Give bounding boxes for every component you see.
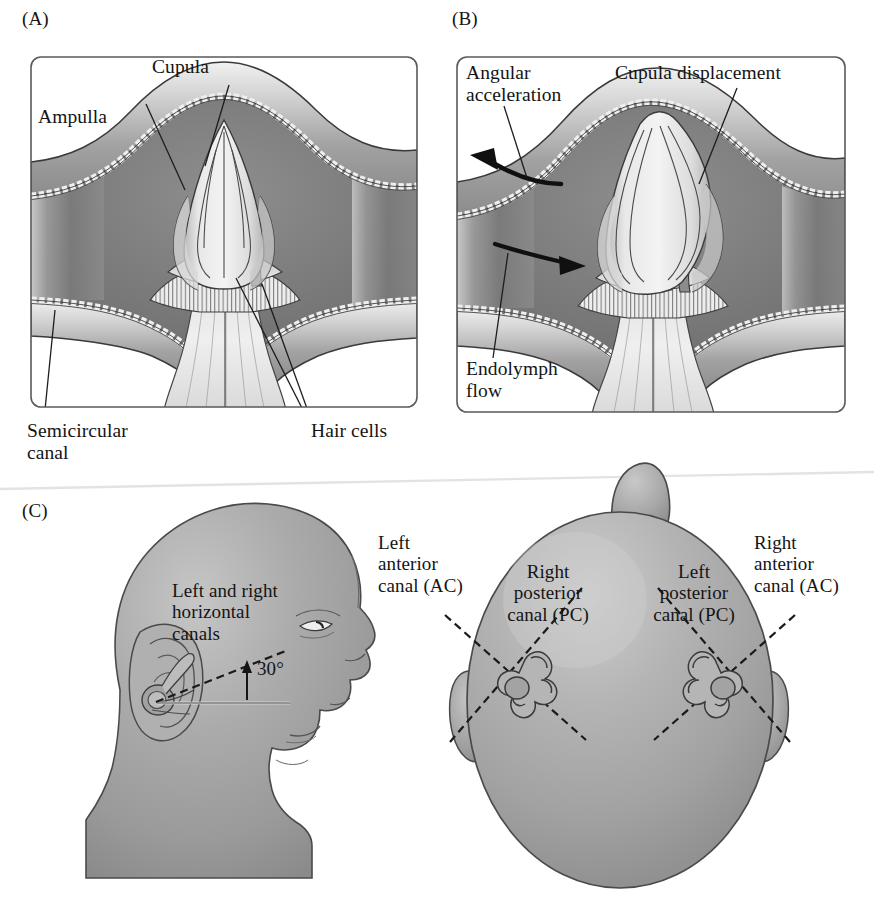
figure-artwork: [0, 0, 874, 905]
label-angular-acceleration: Angular acceleration: [466, 62, 561, 106]
label-angle-30: 30°: [257, 658, 284, 679]
label-hair-cells: Hair cells: [311, 420, 387, 442]
panel-c-side-head-artwork: [86, 503, 375, 878]
label-right-anterior-canal: Right anterior canal (AC): [754, 532, 839, 596]
label-left-anterior-canal: Left anterior canal (AC): [378, 532, 463, 596]
label-semicircular-canal: Semicircular canal: [27, 420, 128, 464]
scan-fold-line: [0, 472, 874, 489]
label-right-posterior-canal: Right posterior canal (PC): [490, 561, 606, 625]
panel-a-tag: (A): [22, 8, 49, 29]
label-left-posterior-canal: Left posterior canal (PC): [636, 561, 752, 625]
panel-b-tag: (B): [452, 8, 478, 29]
panel-c-tag: (C): [22, 500, 48, 521]
label-ampulla: Ampulla: [38, 106, 107, 128]
panel-c-top-head-artwork: [445, 463, 795, 888]
label-cupula: Cupula: [152, 56, 209, 78]
label-cupula-displacement: Cupula displacement: [615, 62, 781, 84]
vestibular-figure: (A) (B) (C) Cupula Ampulla Semicircular …: [0, 0, 874, 905]
label-horizontal-canals: Left and right horizontal canals: [172, 580, 278, 644]
label-endolymph-flow: Endolymph flow: [466, 358, 558, 402]
